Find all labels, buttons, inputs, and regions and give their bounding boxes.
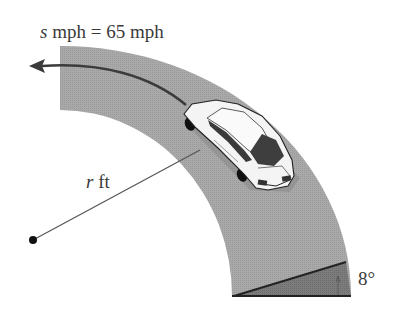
speed-variable: s <box>40 21 47 42</box>
radius-line <box>29 150 200 244</box>
diagram-canvas: s mph = 65 mph r ft 8° <box>0 0 401 317</box>
speed-label: s mph = 65 mph <box>40 21 164 42</box>
radius-label: r ft <box>86 171 110 192</box>
radius-text: ft <box>93 171 110 192</box>
center-point <box>29 236 37 244</box>
bank-angle-label: 8° <box>358 268 375 289</box>
speed-text: mph = 65 mph <box>47 21 164 42</box>
